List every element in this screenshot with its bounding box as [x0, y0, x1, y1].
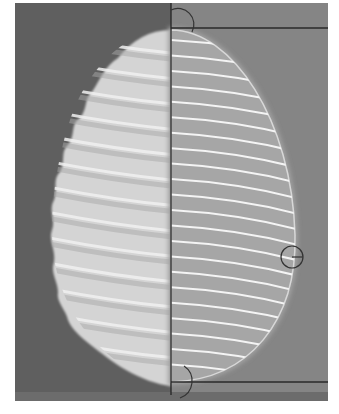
specimen-figure — [0, 0, 339, 414]
